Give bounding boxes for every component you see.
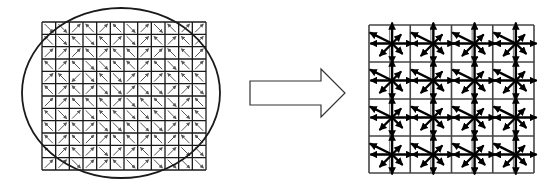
gradient-arrow-icon bbox=[182, 123, 190, 131]
orientation-arrow-sw-icon bbox=[421, 118, 433, 130]
gradient-arrow-icon bbox=[86, 36, 94, 44]
orientation-arrow-nw-icon bbox=[412, 107, 434, 118]
orientation-star-icon bbox=[412, 24, 454, 63]
orientation-arrow-se-icon bbox=[433, 155, 443, 165]
gradient-arrow-icon bbox=[86, 135, 94, 143]
gradient-arrow-icon bbox=[45, 86, 53, 94]
orientation-arrow-sw-icon bbox=[504, 44, 516, 56]
orientation-arrow-sw-icon bbox=[504, 155, 516, 167]
gradient-arrow-icon bbox=[168, 24, 176, 32]
orientation-arrow-se-icon bbox=[475, 118, 485, 128]
gradient-arrow-icon bbox=[195, 61, 203, 69]
gradient-arrow-icon bbox=[86, 73, 94, 81]
gradient-arrow-icon bbox=[100, 98, 108, 106]
orientation-arrow-sw-icon bbox=[463, 118, 475, 130]
gradient-arrow-icon bbox=[86, 110, 94, 118]
orientation-arrow-nw-icon bbox=[453, 107, 475, 118]
orientation-arrow-ne-icon bbox=[433, 109, 441, 117]
gradient-arrow-icon bbox=[168, 86, 176, 94]
gradient-arrow-icon bbox=[127, 135, 135, 143]
orientation-star-icon bbox=[371, 135, 413, 174]
orientation-star-icon bbox=[412, 98, 454, 137]
gradient-arrow-icon bbox=[113, 160, 121, 168]
orientation-arrow-nw-icon bbox=[494, 33, 516, 44]
gradient-arrow-icon bbox=[86, 98, 94, 106]
gradient-arrow-icon bbox=[154, 135, 162, 143]
orientation-arrow-sw-icon bbox=[380, 118, 392, 130]
orientation-arrow-se-icon bbox=[475, 44, 485, 54]
gradient-arrow-icon bbox=[182, 86, 190, 94]
gradient-arrow-icon bbox=[86, 160, 94, 168]
orientation-arrow-ne-icon bbox=[475, 35, 483, 43]
orientation-arrow-nw-icon bbox=[494, 107, 516, 118]
gradient-arrow-icon bbox=[127, 24, 135, 32]
gradient-arrow-icon bbox=[182, 49, 190, 57]
orientation-arrow-ne-icon bbox=[516, 146, 524, 154]
gradient-arrow-icon bbox=[100, 135, 108, 143]
orientation-arrow-se-icon bbox=[475, 81, 485, 91]
orientation-star-icon bbox=[494, 24, 536, 63]
gradient-arrow-icon bbox=[72, 86, 80, 94]
gradient-arrow-icon bbox=[72, 148, 80, 156]
orientation-arrow-ne-icon bbox=[516, 109, 524, 117]
gradient-arrow-icon bbox=[113, 73, 121, 81]
gradient-arrow-icon bbox=[58, 110, 66, 118]
gradient-arrow-icon bbox=[113, 148, 121, 156]
orientation-arrow-sw-icon bbox=[380, 44, 392, 56]
gradient-arrow-icon bbox=[195, 49, 203, 57]
gradient-arrow-icon bbox=[127, 74, 135, 82]
gradient-arrow-icon bbox=[182, 98, 190, 106]
gradient-arrow-icon bbox=[72, 24, 80, 32]
orientation-arrow-sw-icon bbox=[421, 44, 433, 56]
gradient-arrow-icon bbox=[86, 24, 94, 32]
gradient-arrow-icon bbox=[182, 37, 190, 45]
gradient-arrow-icon bbox=[154, 24, 162, 32]
gradient-arrow-icon bbox=[168, 123, 176, 131]
orientation-arrow-nw-icon bbox=[494, 70, 516, 81]
gradient-arrow-icon bbox=[100, 74, 108, 82]
gradient-arrow-icon bbox=[168, 110, 176, 118]
orientation-arrow-nw-icon bbox=[453, 33, 475, 44]
orientation-arrow-se-icon bbox=[475, 155, 485, 165]
orientation-arrow-nw-icon bbox=[494, 144, 516, 155]
orientation-arrow-se-icon bbox=[516, 44, 526, 54]
gradient-arrow-icon bbox=[113, 24, 121, 32]
orientation-star-icon bbox=[494, 135, 536, 174]
orientation-arrow-sw-icon bbox=[421, 81, 433, 93]
gradient-arrow-icon bbox=[59, 135, 67, 143]
gradient-arrow-icon bbox=[45, 160, 53, 168]
orientation-arrow-ne-icon bbox=[433, 35, 441, 43]
gradient-arrow-icon bbox=[72, 61, 80, 69]
gradient-arrow-icon bbox=[86, 123, 94, 131]
gradient-arrow-icon bbox=[127, 110, 135, 118]
gradient-arrow-icon bbox=[168, 37, 176, 45]
orientation-arrow-se-icon bbox=[516, 155, 526, 165]
gradient-arrow-icon bbox=[59, 86, 67, 94]
gradient-arrow-icon bbox=[141, 37, 149, 45]
orientation-arrow-nw-icon bbox=[371, 70, 393, 81]
orientation-arrow-se-icon bbox=[392, 44, 402, 54]
gradient-arrow-icon bbox=[100, 111, 108, 119]
gradient-arrow-icon bbox=[195, 123, 203, 131]
orientation-arrow-ne-icon bbox=[433, 146, 441, 154]
orientation-arrow-se-icon bbox=[516, 81, 526, 91]
orientation-star-icon bbox=[453, 98, 495, 137]
orientation-arrow-ne-icon bbox=[516, 35, 524, 43]
gradient-arrow-icon bbox=[86, 148, 94, 156]
gradient-arrow-icon bbox=[127, 123, 135, 131]
hog-diagram bbox=[0, 0, 555, 188]
gradient-arrow-icon bbox=[154, 86, 162, 94]
orientation-arrow-se-icon bbox=[516, 118, 526, 128]
orientation-arrow-se-icon bbox=[392, 81, 402, 91]
gradient-arrow-icon bbox=[127, 160, 135, 168]
gradient-arrow-icon bbox=[72, 135, 80, 143]
orientation-arrow-sw-icon bbox=[380, 81, 392, 93]
gradient-arrow-icon bbox=[141, 135, 149, 143]
orientation-arrow-nw-icon bbox=[371, 107, 393, 118]
orientation-arrow-nw-icon bbox=[412, 144, 434, 155]
gradient-arrow-icon bbox=[59, 61, 67, 69]
orientation-arrow-ne-icon bbox=[392, 146, 400, 154]
gradient-arrow-icon bbox=[72, 111, 80, 119]
gradient-arrow-icon bbox=[127, 86, 135, 94]
orientation-arrow-sw-icon bbox=[504, 118, 516, 130]
